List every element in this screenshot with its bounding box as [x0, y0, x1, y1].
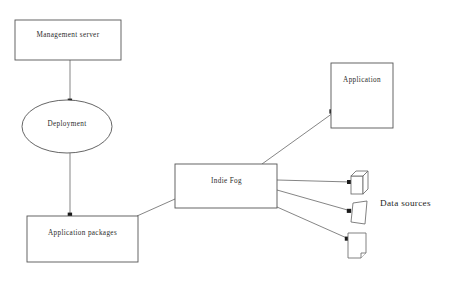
connector-mgmt-to-deployment [68, 60, 72, 103]
diagram-graphics [0, 0, 458, 282]
node-label-application-packages: Application packages [27, 230, 138, 237]
connector-fog-to-source-2 [277, 190, 351, 213]
node-label-management-server: Management server [15, 32, 121, 39]
connector-packages-to-fog [137, 199, 175, 216]
node-label-application: Application [331, 77, 393, 84]
diagram-canvas: Management server Deployment Application… [0, 0, 458, 282]
node-label-deployment: Deployment [22, 121, 112, 128]
node-data-source-3[interactable] [348, 233, 366, 258]
node-label-indie-fog: Indie Fog [176, 178, 277, 185]
node-application[interactable] [331, 63, 393, 128]
node-indie-fog[interactable] [175, 164, 277, 208]
connector-fog-to-source-1 [277, 180, 351, 184]
node-data-source-2[interactable] [351, 201, 367, 224]
node-application-packages[interactable] [27, 216, 138, 262]
node-data-source-1[interactable] [351, 171, 368, 194]
node-management-server[interactable] [15, 20, 121, 60]
connector-fog-to-application [262, 109, 334, 164]
data-sources-label: Data sources [380, 199, 458, 208]
connector-fog-to-source-3 [277, 207, 349, 241]
connector-deployment-to-packages [68, 153, 72, 217]
